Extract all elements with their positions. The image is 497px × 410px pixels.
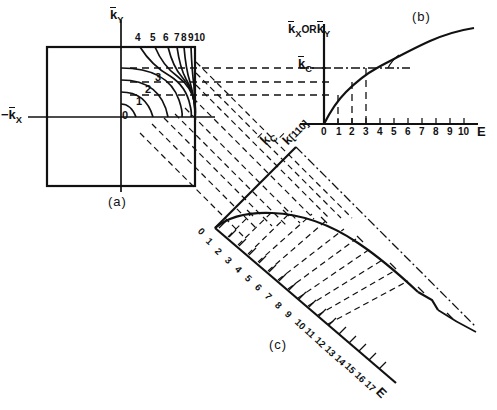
panel-b-xtick-4: 4 (377, 127, 383, 137)
panel-a-contour-label-10: 10 (194, 33, 205, 43)
panel-b-xtick-1: 1 (336, 127, 342, 137)
panel-c-hatch-lines (228, 211, 408, 324)
panel-a-contour-label-8: 8 (181, 33, 187, 43)
panel-b-tag: (b) (412, 10, 431, 23)
panel-a-contour-label-9: 9 (188, 33, 194, 43)
panel-a-contour-label-5: 5 (150, 33, 156, 43)
panel-b-xtick-8: 8 (433, 127, 439, 137)
panel-a-contour-label-1: 1 (136, 96, 142, 107)
panel-a-kx-minus: − (1, 107, 9, 122)
panel-b-xtick-5: 5 (391, 127, 397, 137)
panel-b-xtick-9: 9 (447, 127, 453, 137)
transfer-lines-a-to-c (140, 62, 352, 236)
panel-b-ky-symbol: k (317, 22, 324, 35)
panel-a-contour-label-2: 2 (145, 84, 151, 95)
panel-c-construction-ray (296, 147, 476, 327)
panel-b-ky-subscript: Y (324, 29, 330, 39)
panel-b-xtick-6: 6 (405, 127, 411, 137)
figure-root: .s{fill:none;stroke:#111;stroke-linecap:… (0, 0, 497, 410)
panel-b-y-axis-label: kXORkY (288, 22, 330, 39)
panel-b-kc-subscript: C (305, 64, 312, 74)
panel-b-xtick-3: 3 (363, 127, 369, 137)
panel-b-x-axis-label: E (477, 125, 486, 138)
panel-a-ky-symbol: k (110, 8, 117, 21)
panel-a-contour-label-7: 7 (174, 33, 180, 43)
panel-b-kc-label: kC (298, 57, 312, 74)
panel-b-xtick-7: 7 (419, 127, 425, 137)
panel-a-contour-label-4: 4 (135, 33, 141, 43)
panel-a-kx-symbol: k (9, 108, 16, 121)
panel-a-ky-subscript: Y (117, 15, 123, 25)
panel-a-kx-axis-label: −kX (1, 108, 22, 125)
panel-a-ky-axis-label: kY (110, 8, 123, 25)
panel-c-k-axis (215, 147, 296, 228)
panel-c-curve-kink (418, 292, 438, 310)
panel-b-xtick-0: 0 (321, 127, 327, 137)
panel-b-or-word: OR (301, 24, 316, 35)
panel-a-contour-label-6: 6 (163, 33, 169, 43)
panel-b-dispersion-curve (324, 28, 474, 124)
panel-a-origin-label: 0 (122, 110, 128, 121)
panel-a-contour-label-3: 3 (155, 72, 161, 83)
panel-b-kc-symbol: k (298, 57, 305, 70)
panel-a-tag: (a) (108, 195, 127, 208)
panel-b-xtick-2: 2 (349, 127, 355, 137)
panel-b-kx-symbol: k (288, 22, 295, 35)
panel-c-tag: (c) (269, 338, 287, 351)
panel-b-group (300, 24, 478, 124)
panel-c-group (215, 147, 476, 383)
figure-canvas: .s{fill:none;stroke:#111;stroke-linecap:… (0, 0, 497, 410)
panel-b-xtick-10: 10 (458, 127, 469, 137)
panel-a-kx-subscript: X (16, 115, 22, 125)
